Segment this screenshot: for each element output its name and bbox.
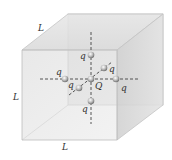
label-charge-front: q xyxy=(68,80,74,90)
label-edge-bottom: L xyxy=(61,142,68,152)
charge-front xyxy=(76,85,83,92)
label-charge-down: q xyxy=(82,104,88,114)
label-charge-back: q xyxy=(109,64,115,74)
charge-center xyxy=(88,76,95,83)
label-charge-right: q xyxy=(121,83,127,93)
cube-diagram: L L L q q q q q q Q xyxy=(0,0,172,160)
label-charge-up: q xyxy=(80,51,86,61)
label-edge-left: L xyxy=(12,92,19,102)
label-charge-left: q xyxy=(56,67,62,77)
charge-up xyxy=(88,52,95,59)
charge-right xyxy=(113,76,120,83)
label-center-charge: Q xyxy=(95,81,103,91)
charge-back xyxy=(101,65,108,72)
label-edge-top: L xyxy=(37,23,44,33)
charge-down xyxy=(88,98,95,105)
